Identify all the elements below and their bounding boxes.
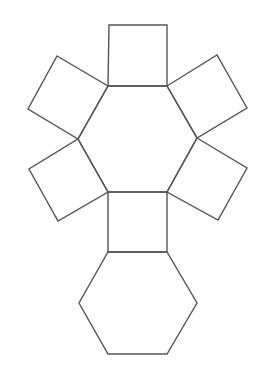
bottom-hexagon [79, 252, 197, 354]
net-shapes [28, 25, 247, 354]
hexagonal-prism-net-diagram [0, 0, 259, 371]
square-top [108, 25, 167, 86]
square-upper-right [167, 55, 247, 138]
square-lower-left [29, 139, 108, 221]
top-hexagon [78, 86, 197, 192]
square-bottom [108, 192, 167, 252]
square-upper-left [28, 56, 108, 139]
square-lower-right [167, 138, 247, 220]
